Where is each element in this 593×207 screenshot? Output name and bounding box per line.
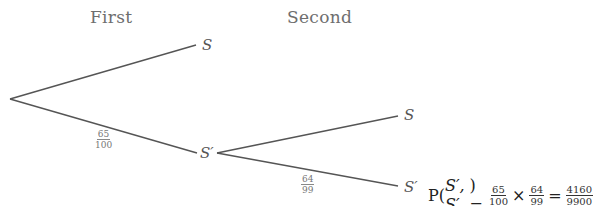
- fraction-denominator: 9900: [567, 196, 592, 207]
- probability-formula: P(S′, S′) = 65 100 × 64 99 = 4160 9900: [428, 176, 593, 206]
- node-first-s: S: [202, 36, 212, 54]
- fraction-numerator: 64: [529, 184, 544, 196]
- branch-label-64-99: 64 99: [301, 174, 314, 195]
- formula-args: S′, S′: [445, 176, 470, 206]
- heading-second: Second: [287, 7, 352, 27]
- formula-fraction-1: 65 100: [489, 184, 508, 207]
- fraction-denominator: 99: [302, 185, 313, 195]
- branch-s-prime-to-s: [217, 116, 398, 153]
- formula-prefix: P(: [428, 186, 445, 205]
- formula-times: ×: [512, 186, 525, 205]
- fraction-numerator: 64: [301, 174, 314, 185]
- fraction-numerator: 4160: [566, 184, 593, 196]
- fraction-numerator: 65: [97, 129, 110, 140]
- formula-equals: =: [548, 186, 561, 205]
- branch-root-to-s: [10, 45, 196, 99]
- formula-result: 4160 9900: [566, 184, 593, 207]
- formula-fraction-2: 64 99: [529, 184, 544, 207]
- fraction-denominator: 99: [530, 196, 543, 207]
- heading-first: First: [90, 7, 132, 27]
- node-second-s-prime: S′: [404, 178, 418, 196]
- fraction-numerator: 65: [491, 184, 506, 196]
- node-second-s: S: [404, 106, 414, 124]
- branch-label-65-100: 65 100: [95, 129, 112, 150]
- fraction-denominator: 100: [489, 196, 508, 207]
- fraction-denominator: 100: [95, 140, 112, 150]
- formula-suffix: ) =: [470, 176, 485, 206]
- node-first-s-prime: S′: [200, 144, 214, 162]
